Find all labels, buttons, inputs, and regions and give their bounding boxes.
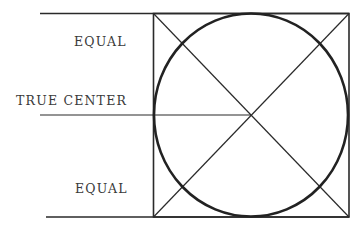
label-equal-bottom: EQUAL bbox=[75, 181, 128, 196]
label-true-center: TRUE CENTER bbox=[16, 93, 127, 108]
label-equal-top: EQUAL bbox=[74, 34, 127, 49]
centering-diagram: EQUAL TRUE CENTER EQUAL bbox=[0, 0, 360, 231]
diagram-graphic bbox=[0, 0, 360, 231]
